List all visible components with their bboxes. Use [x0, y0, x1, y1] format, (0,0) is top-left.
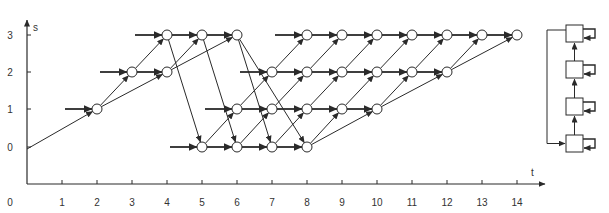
- dependency-edge: [310, 113, 338, 144]
- node: [372, 104, 382, 114]
- t-tick-label: 14: [511, 197, 523, 208]
- processor-box: [566, 25, 583, 42]
- node: [302, 67, 312, 77]
- node: [267, 104, 277, 114]
- t-tick-label: 11: [407, 197, 418, 208]
- systolic-dependency-diagram: 012345678910111213140123st: [0, 0, 609, 213]
- node: [302, 30, 312, 40]
- dependency-edge: [27, 111, 93, 149]
- dependency-edge: [275, 113, 303, 144]
- dependency-edge: [381, 74, 442, 106]
- processor-box: [566, 61, 583, 78]
- dependency-edge: [168, 40, 200, 142]
- node: [127, 67, 137, 77]
- dependency-edge: [311, 111, 372, 144]
- node: [267, 142, 277, 152]
- t-tick-label: 13: [476, 197, 488, 208]
- t-tick-label: 1: [59, 197, 65, 208]
- node: [372, 30, 382, 40]
- node: [162, 67, 172, 77]
- node: [337, 104, 347, 114]
- block-diagram: [547, 25, 595, 152]
- node: [197, 30, 207, 40]
- node: [267, 67, 277, 77]
- t-tick-label: 4: [164, 197, 170, 208]
- t-tick-label: 7: [269, 197, 275, 208]
- self-loop-arrow: [583, 65, 595, 74]
- node: [302, 142, 312, 152]
- node: [372, 67, 382, 77]
- dependency-edge: [275, 76, 303, 106]
- self-loop-arrow: [583, 102, 595, 111]
- t-tick-label: 9: [339, 197, 345, 208]
- dependency-edge: [380, 39, 408, 69]
- dependency-edge: [240, 113, 268, 144]
- node: [302, 104, 312, 114]
- self-loop-arrow: [583, 29, 595, 38]
- processor-box: [566, 135, 583, 152]
- s-tick-label: 1: [7, 104, 13, 115]
- node: [162, 30, 172, 40]
- dependency-edge: [101, 74, 162, 106]
- t-tick-label: 8: [304, 197, 310, 208]
- node: [442, 30, 452, 40]
- s-tick-label: 3: [7, 30, 13, 41]
- node: [512, 30, 522, 40]
- dependency-edge: [451, 37, 512, 69]
- node: [232, 30, 242, 40]
- dependency-edge: [100, 76, 128, 106]
- node: [477, 30, 487, 40]
- dependency-edge: [171, 37, 232, 69]
- t-tick-label: 12: [441, 197, 453, 208]
- t-tick-label: 6: [234, 197, 240, 208]
- dependency-edge: [345, 39, 373, 69]
- processor-box: [566, 98, 583, 115]
- t-axis-label: t: [531, 167, 534, 178]
- dependency-edge: [240, 39, 305, 143]
- dependency-edge: [415, 39, 443, 69]
- dependency-edge: [275, 39, 303, 69]
- dependency-edge: [203, 40, 235, 142]
- dependency-edge: [170, 39, 198, 69]
- dependency-edge: [345, 76, 373, 106]
- s-tick-label: 2: [7, 67, 13, 78]
- node: [197, 142, 207, 152]
- self-loop-arrow: [583, 139, 595, 148]
- dependency-edge: [310, 39, 338, 69]
- t-tick-label: 5: [199, 197, 205, 208]
- node: [337, 30, 347, 40]
- dependency-edge: [310, 76, 338, 106]
- t-tick-label: 0: [7, 197, 13, 208]
- node: [92, 104, 102, 114]
- wraparound-arrow: [547, 30, 566, 144]
- dependency-edge: [135, 39, 163, 69]
- s-axis-label: s: [33, 22, 38, 33]
- edges: [27, 35, 513, 149]
- t-tick-label: 3: [129, 197, 135, 208]
- node: [232, 142, 242, 152]
- node: [337, 67, 347, 77]
- dependency-edge: [450, 39, 478, 69]
- t-tick-label: 2: [94, 197, 100, 208]
- t-tick-label: 10: [371, 197, 383, 208]
- node: [442, 67, 452, 77]
- dependency-edge: [205, 113, 233, 144]
- node: [232, 104, 242, 114]
- node: [407, 67, 417, 77]
- dependency-edge: [240, 76, 268, 106]
- dependency-edge: [380, 76, 408, 106]
- nodes: [92, 30, 522, 152]
- node: [407, 30, 417, 40]
- s-tick-label: 0: [7, 142, 13, 153]
